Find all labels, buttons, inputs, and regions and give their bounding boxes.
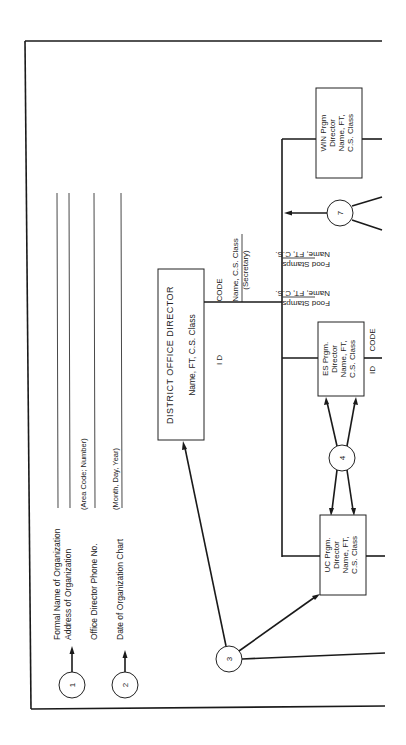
district-office-title: DISTRICT OFFICE DIRECTOR bbox=[165, 286, 175, 424]
food-stamps-1-label: Food Stamps bbox=[282, 260, 330, 269]
food-stamps-2-label: Food Stamps bbox=[282, 299, 330, 308]
win-line-4: C.S. Class bbox=[346, 114, 355, 152]
marker-3-branch bbox=[242, 653, 385, 659]
arrow-to-uc bbox=[239, 597, 315, 651]
uc-line-2: Director bbox=[332, 541, 341, 569]
district-office-id: I D bbox=[215, 355, 224, 365]
es-line-4: C.S. Class bbox=[348, 340, 357, 378]
marker-3-label: 3 bbox=[225, 656, 234, 661]
arrow-to-uc-1 bbox=[332, 470, 337, 510]
es-line-1: ES Prgm. bbox=[321, 342, 330, 376]
legend-date: Date of Organization Chart bbox=[115, 538, 125, 640]
arrow-to-es-1 bbox=[327, 402, 337, 446]
food-stamps-1-name: Name, FT, C.S. bbox=[275, 250, 330, 259]
win-line-1: WIN Prgm bbox=[319, 114, 328, 151]
marker-2-label: 2 bbox=[121, 682, 130, 687]
marker-7-branch-2 bbox=[352, 220, 382, 230]
legend-phone-hint: (Area Code; Number) bbox=[79, 438, 88, 510]
uc-line-3: Name, FT, bbox=[341, 537, 350, 574]
arrow-to-uc-2 bbox=[347, 470, 353, 510]
legend-marker-2: 2 bbox=[112, 650, 138, 698]
legend-marker-1: 1 bbox=[59, 646, 85, 698]
legend-org-name: Formal Name of Organization bbox=[52, 528, 62, 640]
legend-date-hint: (Month, Day, Year) bbox=[111, 448, 120, 510]
marker-7-label: 7 bbox=[336, 210, 345, 215]
fill-line-org-address bbox=[69, 193, 70, 508]
arrow-to-es-2 bbox=[347, 402, 355, 446]
fill-line-org-name bbox=[57, 193, 58, 508]
arrow-to-director bbox=[185, 448, 226, 646]
district-office-code: CODE bbox=[215, 278, 224, 301]
marker-1-label: 1 bbox=[68, 682, 77, 687]
marker-7-branch-1 bbox=[352, 197, 382, 206]
frame-left bbox=[25, 41, 31, 709]
win-line-2: Director bbox=[328, 119, 337, 147]
es-code: CODE bbox=[368, 328, 377, 351]
fill-line-date bbox=[121, 193, 122, 508]
uc-line-1: UC Prgm. bbox=[323, 537, 332, 572]
es-line-2: Director bbox=[330, 345, 339, 373]
marker-4-label: 4 bbox=[338, 455, 347, 460]
frame-bottom bbox=[31, 706, 385, 709]
fill-line-phone bbox=[94, 193, 95, 508]
organization-chart: 1 2 Formal Name of Organization Address … bbox=[0, 0, 406, 745]
legend-org-address: Address of Organization bbox=[63, 549, 73, 640]
es-id: ID bbox=[368, 366, 377, 374]
uc-line-4: C.S. Class bbox=[350, 536, 359, 574]
win-line-3: Name, FT, bbox=[337, 115, 346, 152]
food-stamps-2-name: Name, FT, C.S. bbox=[275, 289, 330, 298]
district-office-subtitle: Name, FT, C.S. Class bbox=[187, 314, 197, 396]
secretary-name: Name, C.S. Class bbox=[231, 238, 240, 302]
es-line-3: Name, FT, bbox=[339, 341, 348, 378]
legend-phone: Office Director Phone No. bbox=[89, 543, 99, 640]
